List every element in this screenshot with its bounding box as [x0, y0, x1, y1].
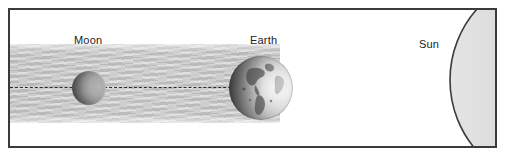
sun-arc-icon	[437, 8, 497, 148]
diagram-frame: Moon Earth Sun	[8, 8, 497, 148]
sun-label: Sun	[419, 38, 439, 50]
moon-label: Moon	[74, 34, 102, 46]
earth-continents-icon	[229, 56, 293, 120]
sun-body	[437, 8, 497, 148]
moon-body	[72, 71, 106, 105]
eclipse-diagram: Moon Earth Sun	[0, 0, 508, 161]
earth-label: Earth	[250, 34, 277, 46]
alignment-dashed-line	[10, 87, 246, 88]
earth-body	[229, 56, 293, 120]
